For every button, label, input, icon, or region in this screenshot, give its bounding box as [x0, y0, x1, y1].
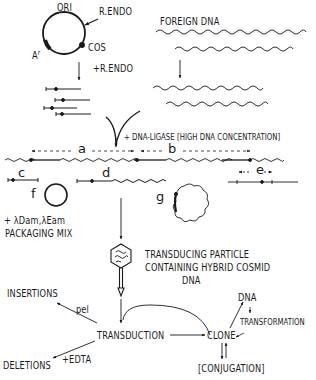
- label-c: c: [18, 166, 25, 179]
- ampr-label: Ar: [32, 50, 40, 61]
- label-d: d: [102, 166, 110, 179]
- transformation-label: TRANSFORMATION: [240, 318, 305, 327]
- foreign-dna-strands: [153, 30, 306, 106]
- particle-line2: CONTAINING HYBRID COSMID: [145, 263, 270, 273]
- insertions-label: INSERTIONS: [7, 289, 58, 299]
- ligase-label: + DNA-LIGASE [HIGH DNA CONCENTRATION]: [124, 133, 280, 142]
- foreign-dna-label: FOREIGN DNA: [160, 17, 219, 27]
- rendo-site-label: R.ENDO: [99, 7, 132, 17]
- arrow-transformation-to-clone: [236, 333, 244, 337]
- rendo-step-label: +R.ENDO: [93, 64, 133, 74]
- label-a: a: [78, 142, 86, 155]
- edta-label: +EDTA: [62, 355, 91, 365]
- label-e: e: [256, 163, 264, 176]
- transduction-label: TRANSDUCTION: [97, 331, 164, 341]
- packaging-line2: PACKAGING MIX: [5, 229, 72, 239]
- concatemer: [5, 159, 284, 162]
- fragment-g-circle: [173, 184, 208, 222]
- pel-label: pel: [76, 305, 89, 315]
- label-g: g: [156, 190, 164, 203]
- label-b: b: [168, 142, 176, 155]
- dna-label: DNA: [238, 293, 257, 303]
- packaging-line1: + λDam,λEam: [4, 216, 65, 226]
- deletions-label: DELETIONS: [3, 361, 51, 371]
- phage-particle-icon: [111, 244, 131, 296]
- particle-line3: DNA: [182, 276, 201, 286]
- fragment-d: [77, 179, 166, 183]
- fragment-f-circle: [45, 184, 67, 206]
- label-f: f: [31, 187, 36, 200]
- ori-label: ORI: [57, 3, 72, 13]
- conjugation-label: [CONJUGATION]: [198, 364, 265, 374]
- particle-line1: TRANSDUCING PARTICLE: [145, 250, 249, 260]
- clone-label: CLONE: [207, 331, 236, 341]
- vector-fragments: [44, 87, 91, 116]
- cos-label: COS: [88, 43, 106, 53]
